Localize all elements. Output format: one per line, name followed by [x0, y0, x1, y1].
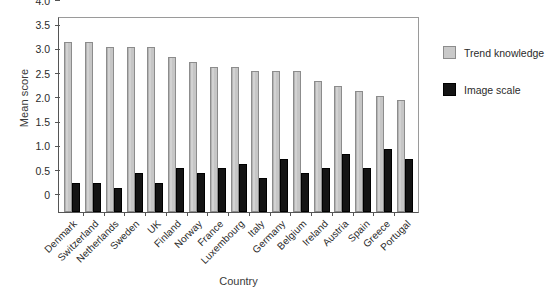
y-axis-tick-label: 1.5 [35, 116, 55, 128]
y-axis-tick-label: 4.0 [35, 0, 55, 7]
bar-group [394, 18, 415, 212]
bar-image-scale[interactable] [363, 168, 371, 212]
bar-trend-knowledge[interactable] [376, 96, 384, 212]
bar-image-scale[interactable] [342, 154, 350, 212]
x-axis-tick-label-cell: Portugal [395, 216, 416, 276]
y-axis-tick-mark [55, 0, 60, 1]
bar-image-scale[interactable] [93, 183, 101, 212]
bar-trend-knowledge[interactable] [293, 71, 301, 212]
bar-group [311, 18, 332, 212]
bar-trend-knowledge[interactable] [189, 62, 197, 212]
bar-image-scale[interactable] [239, 164, 247, 213]
bar-image-scale[interactable] [176, 168, 184, 212]
bar-trend-knowledge[interactable] [147, 47, 155, 212]
y-axis-tick: 2.5 [35, 64, 59, 82]
bar-trend-knowledge[interactable] [251, 71, 259, 212]
bar-trend-knowledge[interactable] [168, 57, 176, 212]
bar-trend-knowledge[interactable] [355, 91, 363, 212]
legend-label: Trend knowledge [464, 47, 544, 59]
y-axis-tick-label: 3.5 [35, 19, 55, 31]
bar-group [332, 18, 353, 212]
bar-group [290, 18, 311, 212]
y-axis-tick: 1.5 [35, 112, 59, 130]
bar-series-container [59, 18, 418, 212]
x-axis-title: Country [58, 275, 419, 287]
x-axis-tick-labels: DenmarkSwitzerlandNetherlandsSwedenUKFin… [58, 216, 419, 276]
y-axis-tick: 4.0 [35, 0, 59, 9]
bar-image-scale[interactable] [218, 168, 226, 212]
x-axis-tick-label-cell: Luxembourg [228, 216, 249, 276]
y-axis-title: Mean score [18, 38, 30, 158]
y-axis-tick: 1.0 [35, 137, 59, 155]
chart-figure: Mean score 00.51.01.52.02.53.03.54.0 Den… [0, 0, 557, 297]
bar-group [207, 18, 228, 212]
bar-image-scale[interactable] [384, 149, 392, 212]
bar-trend-knowledge[interactable] [210, 67, 218, 213]
y-axis-tick-label: 0.5 [35, 165, 55, 177]
bar-image-scale[interactable] [301, 173, 309, 212]
legend-swatch [443, 83, 456, 96]
plot-area: 00.51.01.52.02.53.03.54.0 [58, 17, 419, 213]
y-axis-tick: 0 [44, 185, 59, 203]
y-axis-tick-label: 2.5 [35, 68, 55, 80]
y-axis-tick: 3.5 [35, 15, 59, 33]
bar-image-scale[interactable] [280, 159, 288, 212]
bar-image-scale[interactable] [197, 173, 205, 212]
bar-image-scale[interactable] [135, 173, 143, 212]
bar-trend-knowledge[interactable] [64, 42, 72, 212]
y-axis-tick: 2.0 [35, 88, 59, 106]
chart-legend: Trend knowledgeImage scale [443, 46, 544, 96]
bar-image-scale[interactable] [155, 183, 163, 212]
legend-swatch [443, 46, 456, 59]
bar-trend-knowledge[interactable] [334, 86, 342, 212]
bar-trend-knowledge[interactable] [85, 42, 93, 212]
bar-image-scale[interactable] [259, 178, 267, 212]
bar-group [249, 18, 270, 212]
bar-group [353, 18, 374, 212]
y-axis-tick: 0.5 [35, 161, 59, 179]
bar-group [166, 18, 187, 212]
legend-item[interactable]: Image scale [443, 83, 544, 96]
bar-image-scale[interactable] [72, 183, 80, 212]
bar-group [270, 18, 291, 212]
bar-group [83, 18, 104, 212]
bar-group [187, 18, 208, 212]
x-axis-tick-label-cell: Sweden [124, 216, 145, 276]
y-axis-tick-label: 1.0 [35, 140, 55, 152]
legend-label: Image scale [464, 84, 521, 96]
bar-trend-knowledge[interactable] [272, 71, 280, 212]
bar-trend-knowledge[interactable] [397, 100, 405, 212]
bar-trend-knowledge[interactable] [314, 81, 322, 212]
bar-group [145, 18, 166, 212]
bar-image-scale[interactable] [114, 188, 122, 212]
bar-trend-knowledge[interactable] [106, 47, 114, 212]
y-axis-tick: 3.0 [35, 40, 59, 58]
bar-group [228, 18, 249, 212]
bar-image-scale[interactable] [405, 159, 413, 212]
y-axis-tick-label: 0 [44, 189, 55, 201]
bar-group [104, 18, 125, 212]
legend-item[interactable]: Trend knowledge [443, 46, 544, 59]
y-axis-tick-label: 3.0 [35, 43, 55, 55]
bar-group [124, 18, 145, 212]
bar-image-scale[interactable] [322, 168, 330, 212]
bar-trend-knowledge[interactable] [127, 47, 135, 212]
x-axis-tick-label-cell: Austria [332, 216, 353, 276]
bar-trend-knowledge[interactable] [231, 67, 239, 213]
bar-group [373, 18, 394, 212]
bar-group [62, 18, 83, 212]
y-axis-tick-label: 2.0 [35, 92, 55, 104]
